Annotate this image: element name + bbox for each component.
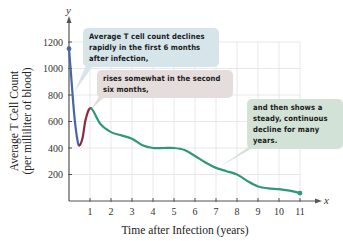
- y-tick-label: 1200: [43, 37, 63, 48]
- x-tick-label: 7: [214, 206, 219, 217]
- y-tick-label: 600: [48, 116, 63, 127]
- x-tick-label: 3: [130, 206, 135, 217]
- x-tick-label: 1: [88, 206, 93, 217]
- y-tick-label: 800: [48, 90, 63, 101]
- start-point: [67, 46, 72, 51]
- y-tick-label: 200: [48, 169, 63, 180]
- x-tick-label: 8: [235, 206, 240, 217]
- x-tick-label: 4: [151, 206, 156, 217]
- end-point: [298, 191, 303, 196]
- x-tick-label: 9: [256, 206, 261, 217]
- x-axis-arrow-icon: [315, 199, 322, 204]
- callout-steady-decline: and then shows a steady, continuous decl…: [247, 99, 343, 149]
- x-axis-letter: x: [323, 194, 329, 206]
- y-axis-arrow-icon: [67, 16, 72, 23]
- curve-segment-rapid-decline: [69, 49, 80, 146]
- x-axis-title: Time after Infection (years): [122, 224, 249, 237]
- y-axis-letter: y: [65, 4, 71, 16]
- y-tick-label: 1000: [43, 63, 63, 74]
- y-axis-title-line2: (per milliliter of blood): [21, 67, 34, 174]
- x-tick-label: 10: [274, 206, 284, 217]
- x-tick-label: 11: [295, 206, 305, 217]
- curve-segment-rise: [80, 108, 92, 145]
- y-axis-title-line1: Average T Cell Count: [8, 70, 21, 171]
- callout-rapid-decline: Average T cell count declines rapidly in…: [83, 28, 219, 67]
- x-tick-label: 5: [172, 206, 177, 217]
- x-tick-label: 2: [109, 206, 114, 217]
- x-tick-label: 6: [193, 206, 198, 217]
- callout-rise: rises somewhat in the second six months,: [97, 70, 233, 98]
- y-tick-label: 400: [48, 143, 63, 154]
